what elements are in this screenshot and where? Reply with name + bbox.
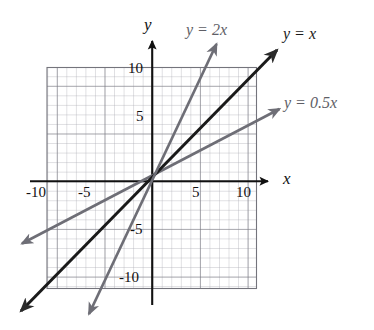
x-tick-label-10: 10 [236, 185, 251, 200]
coordinate-plane-figure: x y -10 -5 5 10 10 5 -5 -10 y = 2x y = x… [0, 0, 374, 330]
x-tick-label-5: 5 [192, 185, 200, 200]
x-axis-label: x [283, 170, 291, 187]
y-axis-label: y [144, 16, 152, 33]
graph-canvas [0, 0, 374, 330]
series-label-y-equals-x: y = x [283, 26, 316, 42]
x-tick-label-neg10: -10 [26, 185, 46, 200]
y-tick-label-neg5: -5 [130, 222, 143, 237]
x-tick-label-neg5: -5 [78, 185, 91, 200]
y-tick-label-neg10: -10 [119, 270, 139, 285]
series-label-y-equals-0.5x: y = 0.5x [284, 95, 337, 111]
series-label-y-equals-2x: y = 2x [186, 22, 227, 38]
y-tick-label-5: 5 [136, 109, 144, 124]
y-tick-label-10: 10 [128, 61, 143, 76]
